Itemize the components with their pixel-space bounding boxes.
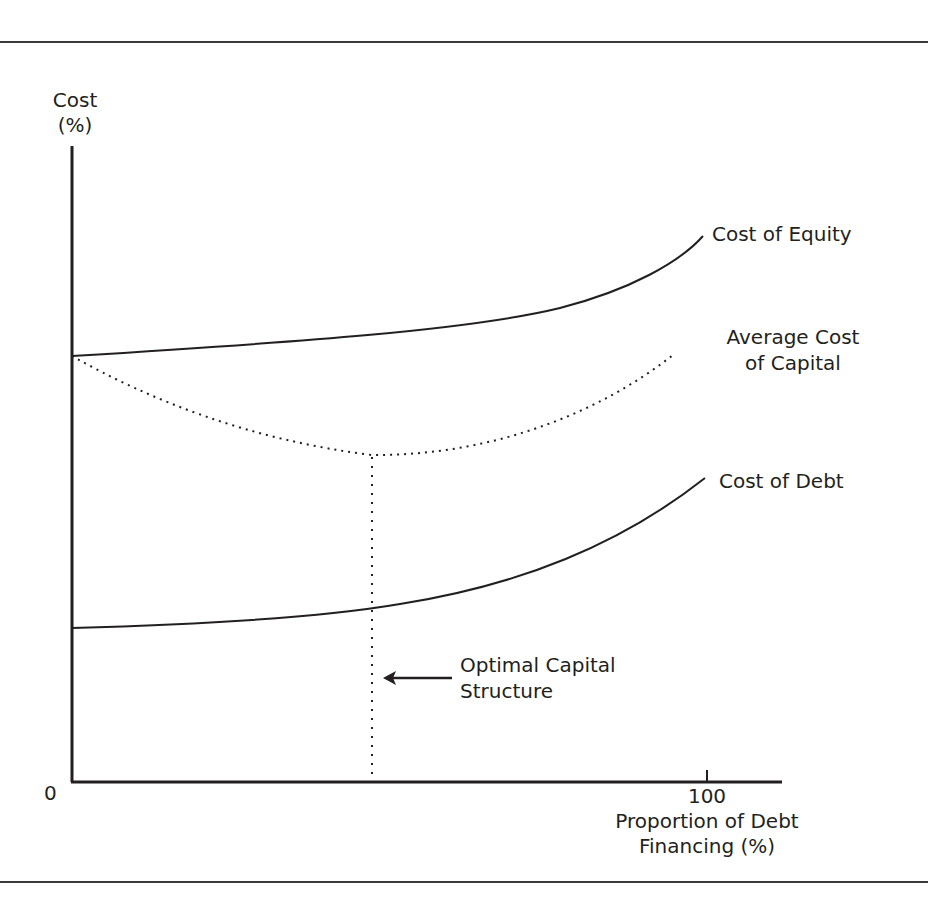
x-axis-title-line1: Proportion of Debt bbox=[582, 809, 832, 834]
cost-of-debt-label: Cost of Debt bbox=[719, 469, 844, 494]
cost-of-debt-curve bbox=[72, 478, 705, 628]
x-axis-title-line2: Financing (%) bbox=[582, 834, 832, 859]
wacc-label-line2: of Capital bbox=[708, 351, 878, 376]
optimal-capital-structure-label: Optimal Capital Structure bbox=[460, 653, 616, 704]
bottom-rule bbox=[0, 881, 928, 883]
optimal-label-line1: Optimal Capital bbox=[460, 653, 616, 678]
cost-of-equity-curve bbox=[72, 236, 703, 356]
x-tick-100-label: 100 bbox=[582, 784, 832, 809]
optimal-label-line2: Structure bbox=[460, 679, 616, 704]
x-axis-title: 100 Proportion of Debt Financing (%) bbox=[582, 784, 832, 859]
wacc-label: Average Cost of Capital bbox=[708, 325, 878, 376]
left-arrow-icon bbox=[383, 671, 452, 685]
average-cost-of-capital-curve bbox=[72, 355, 673, 455]
wacc-label-line1: Average Cost bbox=[708, 325, 878, 350]
cost-of-equity-label: Cost of Equity bbox=[712, 222, 852, 247]
origin-label: 0 bbox=[44, 781, 57, 806]
chart-plot bbox=[0, 0, 928, 911]
